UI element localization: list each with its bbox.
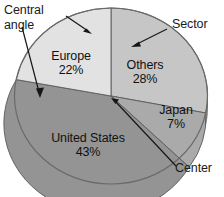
slice-label-others-percent: 28%: [114, 72, 176, 86]
slice-label-united-states-percent: 43%: [33, 145, 143, 159]
slice-label-europe-name: Europe: [51, 49, 91, 63]
slice-label-united-states: United States 43%: [33, 131, 143, 159]
annotation-central-angle-line2: angle: [4, 18, 44, 33]
annotation-central-angle: Central angle: [4, 3, 44, 33]
annotation-sector: Sector: [172, 18, 208, 32]
slice-label-japan-name: Japan: [159, 103, 193, 117]
slice-label-others-name: Others: [127, 58, 164, 72]
annotation-center: Center: [175, 162, 212, 176]
slice-label-europe: Europe 22%: [38, 49, 104, 77]
slice-label-japan: Japan 7%: [148, 103, 204, 131]
pie-chart-figure: Central angle Sector Center Europe 22% O…: [0, 0, 224, 197]
slice-label-united-states-name: United States: [51, 131, 125, 145]
annotation-central-angle-line1: Central: [4, 3, 44, 18]
slice-label-europe-percent: 22%: [38, 63, 104, 77]
slice-label-japan-percent: 7%: [148, 117, 204, 131]
slice-label-others: Others 28%: [114, 58, 176, 86]
